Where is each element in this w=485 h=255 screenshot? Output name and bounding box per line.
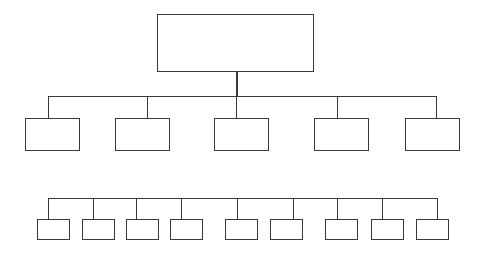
level2-node-3 [126, 219, 159, 240]
level2-node-1 [37, 219, 70, 240]
level1-drop-1 [48, 96, 50, 118]
level2-node-8 [371, 219, 404, 240]
level2-node-5 [225, 219, 258, 240]
level2-node-7 [325, 219, 358, 240]
level1-bus [48, 96, 437, 98]
level1-drop-5 [436, 96, 438, 118]
level2-drop-5 [237, 198, 239, 219]
level2-node-6 [270, 219, 303, 240]
level2-drop-4 [181, 198, 183, 219]
level1-node-5 [405, 118, 460, 151]
level1-drop-3 [236, 96, 238, 118]
level2-node-4 [170, 219, 203, 240]
root-node [157, 14, 314, 72]
root-connector [236, 72, 238, 96]
level1-node-2 [115, 118, 170, 151]
level2-drop-1 [48, 198, 50, 219]
level2-drop-7 [337, 198, 339, 219]
level2-drop-9 [437, 198, 439, 219]
level1-node-1 [25, 118, 80, 151]
org-chart-diagram [0, 0, 485, 255]
level2-drop-8 [382, 198, 384, 219]
level1-node-3 [214, 118, 269, 151]
level1-drop-4 [337, 96, 339, 118]
level1-node-4 [314, 118, 369, 151]
level2-bus [48, 198, 438, 200]
level2-drop-2 [93, 198, 95, 219]
level2-drop-3 [136, 198, 138, 219]
level2-node-9 [416, 219, 449, 240]
level2-node-2 [82, 219, 115, 240]
level1-drop-2 [147, 96, 149, 118]
level2-drop-6 [293, 198, 295, 219]
